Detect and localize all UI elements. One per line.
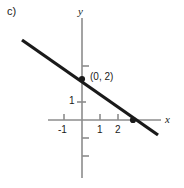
- point-marker-y-intercept: [79, 76, 85, 82]
- coordinate-plane: [0, 0, 184, 188]
- y-tick-label-1: 1: [69, 96, 75, 106]
- x-axis-label: x: [165, 114, 170, 125]
- x-tick-label-1: 1: [97, 125, 103, 135]
- x-tick-label-2: 2: [115, 125, 121, 135]
- point-marker-x-intercept: [130, 117, 136, 123]
- point-annotation-label: (0, 2): [90, 72, 113, 82]
- x-tick-label-minus1: -1: [58, 125, 67, 135]
- graph-figure: c) y x (0, 2) -1 1 2 1: [0, 0, 184, 188]
- part-label: c): [7, 6, 16, 17]
- y-axis-label: y: [78, 6, 83, 17]
